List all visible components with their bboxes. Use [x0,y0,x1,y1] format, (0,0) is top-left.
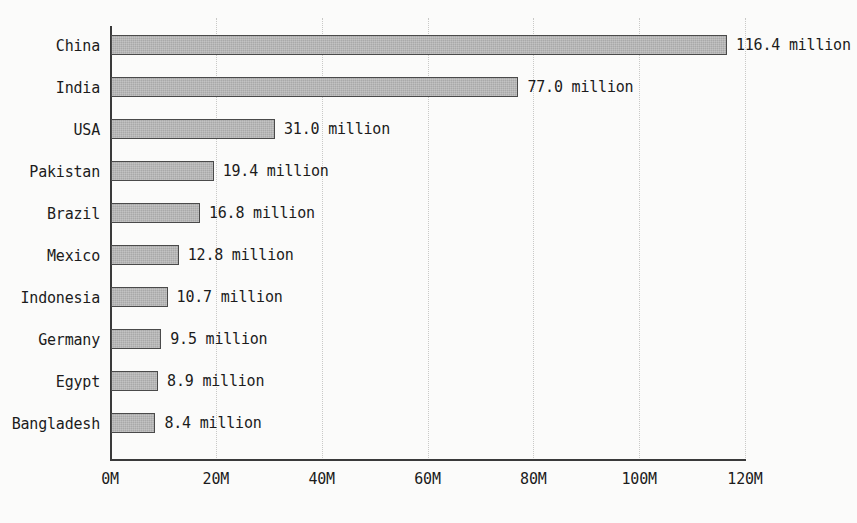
bar-indonesia[interactable] [111,287,168,307]
category-label-egypt: Egypt [0,361,100,403]
value-label-mexico: 12.8 million [188,245,294,267]
bar-row: Indonesia10.7 million [0,277,857,319]
bar-row: Bangladesh8.4 million [0,403,857,445]
bar-row: Brazil16.8 million [0,193,857,235]
value-label-egypt: 8.9 million [167,371,264,393]
bar-bangladesh[interactable] [111,413,155,433]
category-label-indonesia: Indonesia [0,277,100,319]
bar-brazil[interactable] [111,203,200,223]
value-label-germany: 9.5 million [170,329,267,351]
x-axis-line [110,459,746,461]
category-label-pakistan: Pakistan [0,151,100,193]
category-label-germany: Germany [0,319,100,361]
x-tick-label-0M: 0M [101,470,119,488]
bar-egypt[interactable] [111,371,158,391]
x-tick-label-80M: 80M [520,470,547,488]
bar-row: Mexico12.8 million [0,235,857,277]
value-label-pakistan: 19.4 million [223,161,329,183]
bar-germany[interactable] [111,329,161,349]
bar-row: Pakistan19.4 million [0,151,857,193]
category-label-mexico: Mexico [0,235,100,277]
category-label-china: China [0,25,100,67]
bar-row: USA31.0 million [0,109,857,151]
x-tick-label-40M: 40M [308,470,335,488]
bar-india[interactable] [111,77,518,97]
bar-usa[interactable] [111,119,275,139]
bar-pakistan[interactable] [111,161,214,181]
bar-row: China116.4 million [0,25,857,67]
category-label-bangladesh: Bangladesh [0,403,100,445]
value-label-china: 116.4 million [736,35,851,57]
x-tick-label-20M: 20M [203,470,230,488]
value-label-indonesia: 10.7 million [177,287,283,309]
bar-mexico[interactable] [111,245,179,265]
category-label-india: India [0,67,100,109]
value-label-bangladesh: 8.4 million [164,413,261,435]
category-label-usa: USA [0,109,100,151]
value-label-india: 77.0 million [527,77,633,99]
x-tick-label-60M: 60M [414,470,441,488]
bar-chart: China116.4 millionIndia77.0 millionUSA31… [0,0,857,523]
bar-china[interactable] [111,35,727,55]
plot-area: China116.4 millionIndia77.0 millionUSA31… [0,0,857,523]
bar-row: India77.0 million [0,67,857,109]
x-tick-label-120M: 120M [727,470,762,488]
value-label-usa: 31.0 million [284,119,390,141]
bar-row: Egypt8.9 million [0,361,857,403]
bar-row: Germany9.5 million [0,319,857,361]
category-label-brazil: Brazil [0,193,100,235]
x-tick-label-100M: 100M [621,470,656,488]
value-label-brazil: 16.8 million [209,203,315,225]
